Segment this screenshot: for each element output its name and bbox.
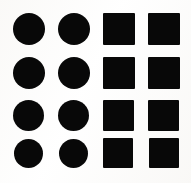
circle-r1c2 [58, 13, 90, 45]
square-r3c4 [148, 100, 179, 131]
circle-r1c1 [13, 13, 45, 45]
square-r2c4 [148, 57, 180, 89]
square-r4c4 [149, 138, 179, 168]
circle-r3c1 [13, 100, 44, 131]
circle-r4c1 [14, 139, 43, 168]
circle-r4c2 [59, 139, 88, 168]
figure-canvas [0, 0, 191, 183]
square-r1c3 [103, 13, 135, 45]
circle-r3c2 [58, 100, 89, 131]
circle-r2c2 [58, 57, 90, 89]
square-r4c3 [103, 138, 133, 168]
square-r3c3 [103, 100, 134, 131]
square-r2c3 [103, 57, 135, 89]
circle-r2c1 [13, 57, 45, 89]
shape-grid [0, 0, 191, 183]
square-r1c4 [148, 13, 180, 45]
